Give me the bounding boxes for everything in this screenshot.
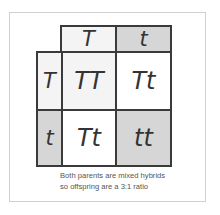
offspring-cell-Tt-bottom: Tt	[61, 109, 117, 167]
offspring-cell-TT: TT	[61, 51, 117, 111]
caption-line-1: Both parents are mixed hybrids	[60, 170, 200, 181]
caption-line-2: so offspring are a 3:1 ratio	[60, 181, 200, 192]
offspring-cell-Tt-top: Tt	[115, 51, 172, 111]
row-header-dominant: T	[36, 51, 63, 111]
column-header-dominant: T	[60, 25, 117, 53]
caption: Both parents are mixed hybrids so offspr…	[60, 170, 200, 192]
column-header-recessive: t	[115, 25, 172, 53]
row-header-recessive: t	[36, 109, 63, 167]
offspring-cell-tt: tt	[115, 109, 172, 167]
